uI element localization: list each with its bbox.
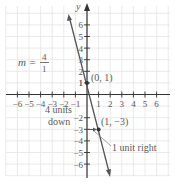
svg-text:−1: −1: [71, 99, 81, 109]
point-label-1-neg3: (1, −3): [101, 116, 128, 128]
svg-text:2: 2: [108, 99, 113, 109]
svg-text:1: 1: [79, 78, 84, 88]
y-axis-label: y: [75, 1, 81, 12]
line-arrow-top-icon: [67, 14, 72, 21]
svg-text:−4: −4: [73, 136, 83, 146]
svg-text:−5: −5: [73, 148, 83, 158]
y-axis-arrow-icon: [84, 3, 90, 11]
svg-text:−2: −2: [73, 113, 83, 123]
coordinate-graph: y −6−5−4−3−2−1123456654321−2−3−4−5−61 (0…: [0, 0, 175, 188]
point-1-neg3: [97, 128, 101, 132]
slope-annotation: m = 4 1: [18, 52, 49, 74]
run-leader-line: [94, 131, 111, 146]
y-axis: [84, 3, 90, 178]
run-arrow-icon: [93, 128, 97, 132]
svg-text:5: 5: [79, 32, 84, 42]
run-annotation: 1 unit right: [112, 142, 157, 153]
svg-text:5: 5: [143, 99, 148, 109]
svg-text:1: 1: [96, 99, 101, 109]
point-label-0-1: (0, 1): [91, 72, 113, 84]
svg-text:4: 4: [131, 99, 136, 109]
svg-text:−5: −5: [24, 99, 34, 109]
svg-text:−6: −6: [13, 99, 23, 109]
svg-text:1: 1: [42, 64, 47, 74]
point-0-1: [85, 81, 89, 85]
svg-text:6: 6: [154, 99, 159, 109]
svg-text:6: 6: [79, 20, 84, 30]
svg-text:−6: −6: [73, 160, 83, 170]
svg-text:4: 4: [79, 44, 84, 54]
svg-text:4: 4: [42, 52, 47, 62]
rise-annotation-line1: 4 units: [45, 104, 72, 115]
svg-text:m =: m =: [18, 56, 36, 68]
svg-text:3: 3: [120, 99, 125, 109]
rise-annotation-line2: down: [48, 116, 70, 127]
svg-text:−3: −3: [73, 125, 83, 135]
